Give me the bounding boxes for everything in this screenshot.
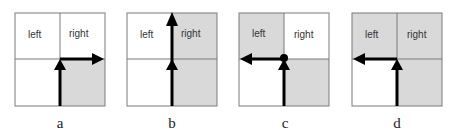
cell-label-right: right [69,28,88,39]
cell-label-left: left [28,29,41,40]
panel-c [239,13,329,106]
cell-label-right: right [181,28,200,39]
panel-a [15,13,105,106]
cell-bottom-right-shaded [284,59,329,106]
cell-bottom-right-shaded [397,59,442,106]
panel-caption-a: a [50,115,70,132]
panel-caption-b: b [162,115,182,132]
cell-label-right: right [407,29,426,40]
cell-label-left: left [252,28,265,39]
cell-label-left: left [140,29,153,40]
cell-label-left: left [365,29,378,40]
figure: left right left right left right left ri… [0,0,454,136]
panel-d [352,13,442,106]
panel-b [127,12,217,106]
arrow-up-then-left [240,53,290,106]
junction-node [280,54,288,62]
cell-label-right: right [294,29,313,40]
panel-caption-c: c [275,115,295,132]
panel-caption-d: d [387,115,407,132]
arrow-up-then-left [353,53,403,106]
cell-bottom-right-shaded [60,59,105,106]
